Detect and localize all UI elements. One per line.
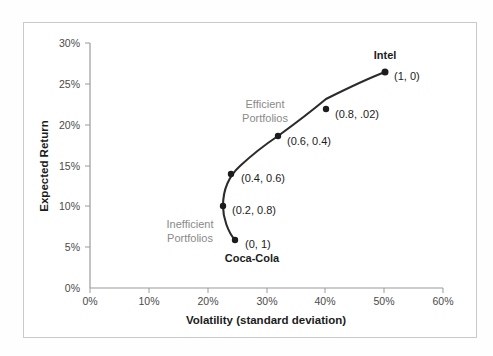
x-tick-label-60: 60% — [432, 295, 453, 307]
y-axis-ticks — [85, 43, 90, 247]
y-tick-label-20: 20% — [59, 119, 80, 131]
annotation-efficient-portfolios-line2: Portfolios — [242, 112, 288, 124]
x-tick-label-0: 0% — [82, 295, 97, 307]
point-label-coca-cola-weights: (0, 1) — [245, 238, 271, 250]
data-point-coca-cola — [232, 237, 238, 243]
efficient-frontier-chart: 30% 25% 20% 15% 10% 5% 0% 0% 10% 20% 30%… — [0, 0, 493, 356]
point-label-intel-weights: (1, 0) — [394, 70, 420, 82]
annotation-inefficient-portfolios-line2: Portfolios — [167, 232, 213, 244]
annotation-intel: Intel — [374, 49, 397, 61]
annotation-efficient-portfolios-line1: Efficient — [246, 98, 285, 110]
data-point-0.2-0.8 — [220, 203, 226, 209]
annotation-inefficient-portfolios-line1: Inefficient — [167, 218, 214, 230]
y-axis-title: Expected Return — [38, 120, 50, 211]
data-point-0.4-0.6 — [228, 171, 234, 177]
y-tick-label-25: 25% — [59, 78, 80, 90]
x-axis-tick-labels: 0% 10% 20% 30% 40% 50% 60% — [82, 295, 453, 307]
y-tick-label-5: 5% — [65, 241, 80, 253]
point-label-0.8-0.02: (0.8, .02) — [335, 108, 379, 120]
x-tick-label-40: 40% — [314, 295, 335, 307]
data-point-0.6-0.4 — [275, 133, 281, 139]
data-markers — [220, 69, 389, 244]
data-point-labels: (1, 0) (0.8, .02) (0.6, 0.4) (0.4, 0.6) … — [232, 70, 420, 250]
x-tick-label-10: 10% — [138, 295, 159, 307]
point-label-0.2-0.8: (0.2, 0.8) — [232, 204, 276, 216]
y-axis-tick-labels: 30% 25% 20% 15% 10% 5% 0% — [59, 37, 80, 294]
annotation-coca-cola: Coca-Cola — [225, 252, 280, 264]
point-label-0.4-0.6: (0.4, 0.6) — [241, 172, 285, 184]
x-axis-title: Volatility (standard deviation) — [186, 314, 346, 326]
x-tick-label-30: 30% — [256, 295, 277, 307]
x-axis-ticks — [90, 288, 443, 293]
x-tick-label-20: 20% — [197, 295, 218, 307]
y-tick-label-15: 15% — [59, 160, 80, 172]
y-tick-label-30: 30% — [59, 37, 80, 49]
data-point-intel — [382, 69, 389, 76]
data-point-0.8-0.02 — [323, 106, 329, 112]
y-tick-label-10: 10% — [59, 200, 80, 212]
y-tick-label-0: 0% — [65, 282, 80, 294]
point-label-0.6-0.4: (0.6, 0.4) — [287, 135, 331, 147]
x-tick-label-50: 50% — [373, 295, 394, 307]
figure-root: 30% 25% 20% 15% 10% 5% 0% 0% 10% 20% 30%… — [0, 0, 493, 356]
